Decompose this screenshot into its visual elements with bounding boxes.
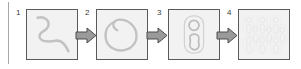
step-panel-4 xyxy=(238,9,290,60)
left-vertical-rule xyxy=(8,2,9,64)
arrow-1-to-2 xyxy=(75,27,97,44)
step-label-2: 2 xyxy=(85,8,89,17)
arrow-3-to-4 xyxy=(216,27,238,44)
process-flow-figure: 1 2 3 4 xyxy=(0,0,301,69)
tiled-array-pattern-icon xyxy=(239,10,289,59)
closed-loop-icon xyxy=(97,10,147,59)
arrow-2-to-3 xyxy=(146,27,168,44)
step-panel-2 xyxy=(96,9,148,60)
step-panel-3 xyxy=(168,9,220,60)
rounded-capsule-with-circle-and-blob-icon xyxy=(169,10,219,59)
step-label-1: 1 xyxy=(16,8,20,17)
open-squiggle-curve-icon xyxy=(27,10,77,59)
step-label-3: 3 xyxy=(157,8,161,17)
step-panel-1 xyxy=(26,9,78,60)
step-label-4: 4 xyxy=(227,8,231,17)
